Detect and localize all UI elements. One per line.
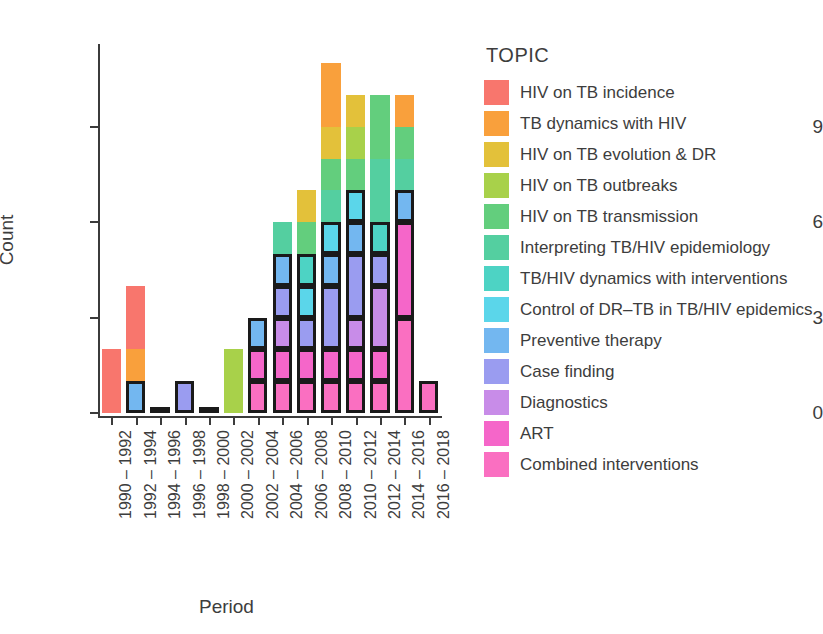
bar-segment[interactable] [370, 286, 389, 350]
bar-segment[interactable] [273, 381, 292, 413]
legend-item-label: Diagnostics [520, 394, 608, 411]
legend-item[interactable]: HIV on TB incidence [484, 77, 814, 108]
bar-segment[interactable] [297, 222, 316, 254]
bar-segment[interactable] [126, 286, 145, 350]
bar-segment[interactable] [224, 349, 243, 413]
bar-segment[interactable] [321, 381, 340, 413]
bar-segment[interactable] [321, 254, 340, 286]
legend-item[interactable]: Combined interventions [484, 449, 814, 480]
legend-swatch-icon [484, 297, 509, 322]
bar-segment[interactable] [126, 349, 145, 381]
legend-swatch-icon [484, 80, 509, 105]
legend-item[interactable]: Control of DR–TB in TB/HIV epidemics [484, 294, 814, 325]
bar-segment[interactable] [395, 190, 414, 222]
bar-segment[interactable] [370, 349, 389, 381]
x-tick-label: 2008 – 2010 [338, 430, 354, 519]
bar-segment[interactable] [346, 318, 365, 350]
bar-20002002[interactable] [224, 44, 243, 413]
legend-item-label: TB/HIV dynamics with interventions [520, 270, 787, 287]
bar-segment[interactable] [346, 381, 365, 413]
bar-segment[interactable] [273, 286, 292, 318]
bar-segment[interactable] [370, 159, 389, 223]
bar-20142016[interactable] [395, 44, 414, 413]
legend-item-label: HIV on TB incidence [520, 84, 675, 101]
bar-segment[interactable] [321, 159, 340, 191]
bar-segment[interactable] [102, 349, 121, 413]
bar-segment[interactable] [370, 254, 389, 286]
bar-segment[interactable] [297, 254, 316, 286]
bar-segment[interactable] [297, 381, 316, 413]
legend-item[interactable]: Case finding [484, 356, 814, 387]
bar-segment[interactable] [395, 127, 414, 159]
bar-20122014[interactable] [370, 44, 389, 413]
bar-segment[interactable] [321, 349, 340, 381]
bar-segment[interactable] [346, 95, 365, 127]
bar-19961998[interactable] [175, 44, 194, 413]
bar-segment[interactable] [248, 318, 267, 350]
bar-segment[interactable] [395, 159, 414, 191]
x-tick-label: 2014 – 2016 [411, 430, 427, 519]
legend-item[interactable]: TB dynamics with HIV [484, 108, 814, 139]
bar-segment[interactable] [273, 222, 292, 254]
bar-segment[interactable] [273, 254, 292, 286]
bar-segment[interactable] [248, 349, 267, 381]
legend-swatch-icon [484, 421, 509, 446]
bar-segment[interactable] [297, 190, 316, 222]
legend: TOPIC HIV on TB incidenceTB dynamics wit… [484, 44, 814, 480]
bar-segment[interactable] [395, 222, 414, 317]
legend-swatch-icon [484, 142, 509, 167]
bar-segment[interactable] [346, 127, 365, 159]
legend-swatch-icon [484, 328, 509, 353]
bar-20062008[interactable] [297, 44, 316, 413]
bar-20162018[interactable] [419, 44, 438, 413]
legend-item[interactable]: Interpreting TB/HIV epidemiology [484, 232, 814, 263]
legend-item[interactable]: ART [484, 418, 814, 449]
legend-item[interactable]: Diagnostics [484, 387, 814, 418]
bar-segment[interactable] [321, 222, 340, 254]
bar-segment[interactable] [175, 381, 194, 413]
bar-segment[interactable] [297, 286, 316, 318]
bar-segment[interactable] [346, 254, 365, 318]
bar-segment[interactable] [346, 159, 365, 191]
x-tick-mark [429, 418, 431, 425]
legend-item[interactable]: HIV on TB evolution & DR [484, 139, 814, 170]
bar-19921994[interactable] [126, 44, 145, 413]
bar-19901992[interactable] [102, 44, 121, 413]
bar-segment[interactable] [395, 318, 414, 413]
bar-segment[interactable] [248, 381, 267, 413]
bar-segment[interactable] [346, 349, 365, 381]
bar-segment[interactable] [346, 222, 365, 254]
bar-segment[interactable] [321, 286, 340, 350]
bar-20082010[interactable] [321, 44, 340, 413]
bar-segment[interactable] [273, 318, 292, 350]
bar-segment[interactable] [346, 190, 365, 222]
bar-segment[interactable] [321, 127, 340, 159]
bar-segment[interactable] [297, 318, 316, 350]
x-tick-mark [160, 418, 162, 425]
bar-segment[interactable] [370, 95, 389, 159]
legend-swatch-icon [484, 359, 509, 384]
bar-segment[interactable] [370, 381, 389, 413]
legend-item-label: HIV on TB evolution & DR [520, 146, 716, 163]
legend-item[interactable]: HIV on TB outbreaks [484, 170, 814, 201]
bar-segment[interactable] [321, 190, 340, 222]
bar-20022004[interactable] [248, 44, 267, 413]
legend-items: HIV on TB incidenceTB dynamics with HIVH… [484, 77, 814, 480]
bar-segment[interactable] [126, 381, 145, 413]
bar-segment[interactable] [395, 95, 414, 127]
bar-19941996[interactable] [150, 44, 169, 413]
bar-19982000[interactable] [199, 44, 218, 413]
bar-segment[interactable] [297, 349, 316, 381]
bar-segment[interactable] [370, 222, 389, 254]
x-tick-label: 2000 – 2002 [240, 430, 256, 519]
bar-20102012[interactable] [346, 44, 365, 413]
bar-20042006[interactable] [273, 44, 292, 413]
bar-segment[interactable] [419, 381, 438, 413]
y-tick-mark [90, 221, 98, 223]
legend-item[interactable]: Preventive therapy [484, 325, 814, 356]
bar-segment[interactable] [273, 349, 292, 381]
bar-segment[interactable] [321, 63, 340, 127]
legend-item[interactable]: HIV on TB transmission [484, 201, 814, 232]
legend-item[interactable]: TB/HIV dynamics with interventions [484, 263, 814, 294]
legend-item-label: HIV on TB transmission [520, 208, 698, 225]
